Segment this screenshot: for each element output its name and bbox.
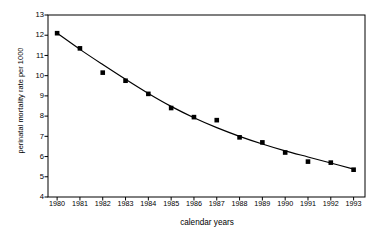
chart-figure: perinatal mortality rate per 1000 456789… [0,0,385,237]
data-point-marker [146,92,151,97]
data-point-marker [100,70,105,75]
data-point-marker [55,31,60,36]
axis-tickmarks [45,15,354,201]
data-point-marker [283,150,288,155]
data-point-marker [306,159,311,164]
data-point-marker [192,115,197,120]
plot-area [0,0,385,237]
data-point-markers [55,31,356,172]
trend-line [57,33,353,169]
data-point-marker [351,167,356,172]
data-point-marker [123,78,128,83]
data-point-marker [237,135,242,140]
data-point-marker [78,46,83,51]
data-point-marker [169,106,174,111]
data-point-marker [260,140,265,145]
data-point-marker [214,118,219,123]
data-point-marker [328,160,333,165]
axis-frame [48,15,365,197]
